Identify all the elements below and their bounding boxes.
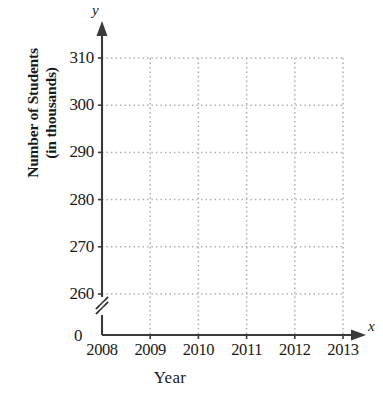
y-axis-tick-label: 260 bbox=[48, 285, 94, 302]
x-axis-arrowhead bbox=[351, 330, 366, 341]
y-axis-break-mark bbox=[96, 297, 108, 315]
y-axis-tick-label: 270 bbox=[48, 238, 94, 255]
y-axis-tick-label: 310 bbox=[48, 49, 94, 66]
y-axis-tick-label: 280 bbox=[48, 191, 94, 208]
horizontal-gridlines bbox=[102, 58, 343, 294]
chart-container: Number of Students (in thousands) y x 0 … bbox=[0, 0, 383, 396]
x-axis-tick-label: 2013 bbox=[315, 340, 371, 360]
y-axis-arrowhead bbox=[97, 21, 108, 36]
x-axis-title: Year bbox=[0, 368, 340, 388]
y-axis-tick-label: 300 bbox=[48, 96, 94, 113]
y-axis-tick-label: 290 bbox=[48, 143, 94, 160]
